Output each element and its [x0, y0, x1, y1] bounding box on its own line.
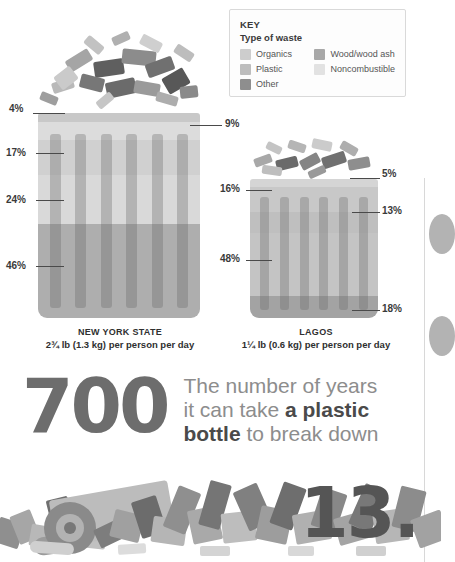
band-newyork-4	[38, 113, 200, 122]
leader-newyork-17	[36, 153, 64, 154]
cut-off-badge-icon-bottom	[429, 316, 455, 356]
legend-key-box: KEY Type of waste Organics Plastic Other	[229, 9, 406, 97]
legend-label-plastic: Plastic	[256, 64, 283, 75]
pct-lagos-13: 13%	[382, 205, 402, 216]
statistic-line3-a: bottle	[183, 422, 240, 445]
pct-newyork-17: 17%	[6, 147, 26, 158]
leader-lagos-5	[350, 178, 380, 179]
statistic-text: The number of years it can take a plasti…	[183, 374, 378, 446]
legend-item-noncombustible: Noncombustible	[314, 64, 395, 75]
legend-label-wood: Wood/wood ash	[330, 49, 394, 60]
band-lagos-13	[250, 212, 378, 233]
leader-newyork-9	[190, 125, 222, 126]
legend-swatch-organics	[240, 49, 251, 60]
leader-newyork-4	[33, 113, 65, 114]
trash-heap-lagos	[248, 136, 378, 180]
pct-lagos-5: 5%	[382, 168, 396, 179]
cut-off-badge-icon-top	[429, 214, 455, 254]
caption-lagos: LAGOS 1¼ lb (0.6 kg) per person per day	[218, 326, 414, 351]
caption-lagos-title: LAGOS	[218, 326, 414, 338]
legend-label-noncombustible: Noncombustible	[330, 64, 395, 75]
legend-swatch-other	[240, 79, 251, 90]
trash-heap-newyork	[36, 24, 202, 116]
legend-title: KEY	[240, 19, 395, 31]
legend-item-organics: Organics	[240, 49, 306, 60]
statistic-callout: 700 The number of years it can take a pl…	[22, 370, 422, 446]
legend-label-other: Other	[256, 79, 279, 90]
leader-newyork-46	[36, 266, 64, 267]
caption-newyork-title: NEW YORK STATE	[30, 326, 210, 338]
caption-lagos-subtitle: 1¼ lb (0.6 kg) per person per day	[218, 338, 414, 351]
pct-lagos-16: 16%	[220, 183, 240, 194]
pct-newyork-46: 46%	[6, 260, 26, 271]
band-newyork-17	[38, 140, 200, 175]
band-lagos-5	[250, 179, 378, 187]
pct-lagos-18: 18%	[382, 303, 402, 314]
pct-newyork-24: 24%	[6, 194, 26, 205]
caption-newyork-subtitle: 2¾ lb (1.3 kg) per person per day	[30, 338, 210, 351]
legend-subtitle: Type of waste	[240, 31, 395, 44]
leader-newyork-24	[36, 200, 64, 201]
band-newyork-46	[38, 224, 200, 318]
caption-newyork: NEW YORK STATE 2¾ lb (1.3 kg) per person…	[30, 326, 210, 351]
leader-lagos-13	[352, 212, 380, 213]
leader-lagos-48	[246, 260, 272, 261]
statistic-line2-a: it can take	[183, 398, 285, 421]
legend-swatch-wood	[314, 49, 325, 60]
pct-newyork-4: 4%	[9, 103, 23, 114]
next-statistic-number: 13.	[300, 478, 418, 548]
legend-swatch-plastic	[240, 64, 251, 75]
leader-lagos-16	[246, 190, 272, 191]
band-lagos-48	[250, 233, 378, 296]
pct-newyork-9: 9%	[225, 118, 239, 129]
legend-label-organics: Organics	[256, 49, 292, 60]
leader-lagos-18	[352, 310, 380, 311]
legend-item-other: Other	[240, 79, 306, 90]
bin-newyork	[38, 113, 200, 318]
statistic-number: 700	[22, 370, 167, 442]
band-newyork-9	[38, 122, 200, 140]
bin-lagos	[250, 179, 378, 318]
legend-swatch-noncombustible	[314, 64, 325, 75]
pct-lagos-48: 48%	[220, 253, 240, 264]
legend-item-plastic: Plastic	[240, 64, 306, 75]
band-lagos-18	[250, 296, 378, 318]
statistic-line3-b: to break down	[241, 422, 379, 445]
legend-item-wood: Wood/wood ash	[314, 49, 395, 60]
statistic-line1: The number of years	[183, 374, 377, 397]
statistic-line2-b: a plastic	[285, 398, 369, 421]
